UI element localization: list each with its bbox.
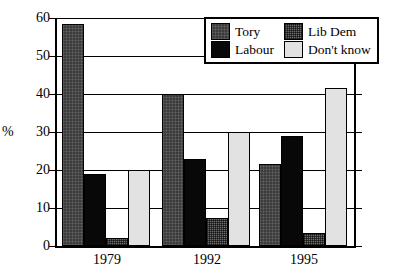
y-tick-label-40: 40 — [36, 87, 50, 101]
left-tick-0 — [49, 246, 55, 247]
x-axis-line — [55, 246, 356, 248]
bar-lib-dem-1992 — [206, 218, 228, 247]
bar-lib-dem-1995 — [303, 233, 325, 246]
bar-chart: 60 50 40 30 20 10 0 % — [0, 0, 401, 276]
bar-tory-1992 — [162, 94, 184, 246]
y-axis-unit-label: % — [2, 124, 14, 140]
bar-dont-know-1995 — [325, 88, 347, 246]
dontknow-swatch-icon — [284, 41, 303, 58]
y-tick-label-10: 10 — [36, 201, 50, 215]
bar-labour-1992 — [184, 159, 206, 246]
y-tick-label-30: 30 — [36, 125, 50, 139]
y-axis-labels: 60 50 40 30 20 10 0 % — [0, 18, 50, 248]
y-tick-label-20: 20 — [36, 163, 50, 177]
bar-dont-know-1979 — [128, 170, 150, 246]
bar-lib-dem-1979 — [106, 238, 128, 246]
legend-item-dont-know: Don't know — [284, 41, 371, 58]
legend-item-tory: Tory — [211, 23, 274, 40]
y-tick-label-50: 50 — [36, 49, 50, 63]
legend-label-lib-dem: Lib Dem — [308, 24, 356, 39]
bar-labour-1995 — [281, 136, 303, 246]
legend-label-tory: Tory — [235, 24, 260, 39]
right-tick-20 — [355, 170, 362, 171]
bar-labour-1979 — [84, 174, 106, 246]
legend-label-labour: Labour — [235, 42, 274, 57]
right-tick-0 — [355, 246, 362, 247]
right-tick-30 — [355, 132, 362, 133]
labour-swatch-icon — [211, 41, 230, 58]
tory-swatch-icon — [211, 23, 230, 40]
bar-tory-1995 — [259, 164, 281, 246]
legend-label-dont-know: Don't know — [308, 42, 371, 57]
legend-item-labour: Labour — [211, 41, 274, 58]
libdem-swatch-icon — [284, 23, 303, 40]
x-axis-labels: 1979 1992 1995 — [55, 252, 355, 274]
bar-group-1979 — [62, 18, 150, 246]
x-tick-label-1995: 1995 — [290, 252, 318, 268]
bar-dont-know-1992 — [228, 132, 250, 246]
legend-item-lib-dem: Lib Dem — [284, 23, 371, 40]
right-tick-40 — [355, 94, 362, 95]
chart-legend: Tory Lib Dem Labour Don't know — [204, 17, 379, 64]
x-tick-label-1979: 1979 — [93, 252, 121, 268]
x-tick-label-1992: 1992 — [193, 252, 221, 268]
bar-tory-1979 — [62, 24, 84, 246]
y-tick-label-60: 60 — [36, 11, 50, 25]
right-tick-10 — [355, 208, 362, 209]
